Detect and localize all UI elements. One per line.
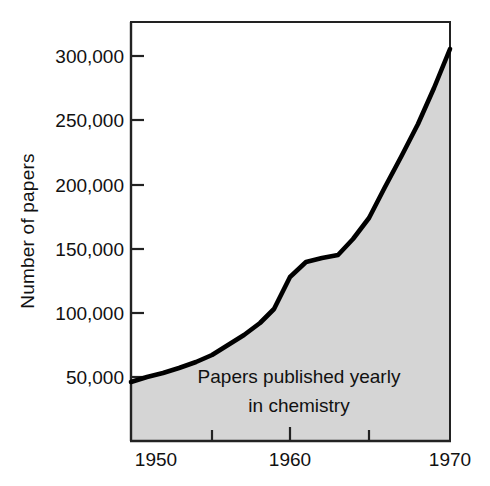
annotation-line-2: in chemistry	[248, 395, 350, 416]
y-tick-label-300000: 300,000	[55, 46, 124, 67]
y-axis-tick-labels: 300,000 250,000 200,000 150,000 100,000 …	[55, 46, 124, 388]
y-tick-label-200000: 200,000	[55, 175, 124, 196]
papers-published-area-chart: 300,000 250,000 200,000 150,000 100,000 …	[0, 0, 490, 486]
x-tick-label-1960: 1960	[269, 449, 311, 470]
x-tick-label-1950: 1950	[135, 449, 177, 470]
annotation-line-1: Papers published yearly	[198, 366, 401, 387]
y-tick-label-50000: 50,000	[66, 367, 124, 388]
chart-page: 300,000 250,000 200,000 150,000 100,000 …	[0, 0, 490, 486]
y-axis-ticks	[131, 56, 144, 377]
x-tick-label-1970: 1970	[429, 449, 471, 470]
y-tick-label-150000: 150,000	[55, 239, 124, 260]
y-tick-label-100000: 100,000	[55, 303, 124, 324]
y-tick-label-250000: 250,000	[55, 110, 124, 131]
plot-canvas: 300,000 250,000 200,000 150,000 100,000 …	[0, 0, 490, 486]
x-axis-tick-labels: 1950 1960 1970	[135, 449, 471, 470]
